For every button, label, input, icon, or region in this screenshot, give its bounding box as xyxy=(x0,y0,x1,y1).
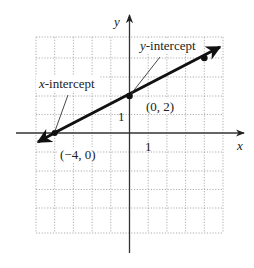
x-axis-label: x xyxy=(236,138,243,153)
point-label-y-intercept: (0, 2) xyxy=(146,99,174,114)
point-x-intercept xyxy=(52,130,58,136)
y-tick-label: 1 xyxy=(118,109,125,124)
coordinate-plane: y x 1 1 x-intercept y-intercept (0, 2) (… xyxy=(0,0,254,268)
point-4-4 xyxy=(201,55,208,62)
point-label-x-intercept: (−4, 0) xyxy=(60,147,96,162)
y-intercept-label: y-intercept xyxy=(138,38,196,53)
y-axis-label: y xyxy=(112,14,120,29)
y-intercept-leader xyxy=(131,57,160,94)
x-intercept-label: x-intercept xyxy=(38,76,95,91)
x-tick-label: 1 xyxy=(145,139,152,154)
